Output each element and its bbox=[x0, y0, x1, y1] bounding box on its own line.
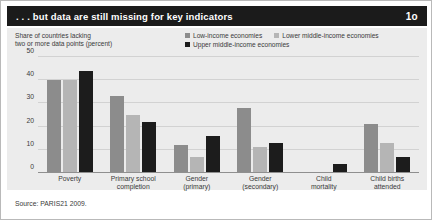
bar bbox=[110, 96, 124, 173]
bar bbox=[237, 108, 251, 173]
legend-label-upper-middle-income: Upper middle-income economies bbox=[193, 40, 289, 49]
figure-title-bar: . . . but data are still missing for key… bbox=[7, 6, 427, 26]
bar bbox=[380, 143, 394, 173]
legend-item-lower-middle-income: Lower middle-income economies bbox=[274, 31, 378, 40]
bar-group bbox=[165, 57, 229, 173]
bar-group bbox=[292, 57, 356, 173]
bar bbox=[190, 157, 204, 173]
legend-row-top: Low-income economies Lower middle-income… bbox=[185, 31, 423, 40]
legend-swatch-lower-middle-income bbox=[274, 33, 279, 38]
plot-area: 01020304050 bbox=[38, 57, 419, 173]
bar-group bbox=[356, 57, 420, 173]
bar-groups bbox=[38, 57, 419, 173]
legend-row-bottom: Upper middle-income economies bbox=[185, 40, 423, 49]
bar bbox=[142, 122, 156, 173]
page-title: . . . but data are still missing for key… bbox=[16, 11, 233, 22]
y-axis-tick-label: 10 bbox=[26, 139, 34, 146]
x-axis-tick-label: Child mortality bbox=[292, 175, 356, 191]
x-axis-labels: PovertyPrimary school completionGender (… bbox=[38, 175, 419, 191]
y-axis-tick-label: 30 bbox=[26, 93, 34, 100]
y-axis-tick-label: 20 bbox=[26, 116, 34, 123]
x-axis-baseline bbox=[38, 172, 419, 173]
bar bbox=[47, 80, 61, 173]
bar bbox=[174, 145, 188, 173]
x-axis-tick-label: Gender (primary) bbox=[165, 175, 229, 191]
bar bbox=[364, 124, 378, 173]
source-note: Source: PARIS21 2009. bbox=[15, 200, 87, 207]
bar bbox=[206, 136, 220, 173]
bar-group bbox=[102, 57, 166, 173]
x-axis-tick-label: Child births attended bbox=[356, 175, 420, 191]
bar bbox=[269, 143, 283, 173]
bar-group bbox=[38, 57, 102, 173]
legend-label-lower-middle-income: Lower middle-income economies bbox=[282, 31, 378, 40]
x-axis-tick-label: Gender (secondary) bbox=[229, 175, 293, 191]
legend-item-low-income: Low-income economies bbox=[185, 31, 262, 40]
bar bbox=[253, 147, 267, 173]
bar bbox=[79, 71, 93, 173]
bar bbox=[126, 115, 140, 173]
figure-number-badge: 1o bbox=[406, 11, 418, 22]
chart-legend: Low-income economies Lower middle-income… bbox=[185, 31, 423, 49]
legend-label-low-income: Low-income economies bbox=[193, 31, 262, 40]
x-axis-tick-label: Primary school completion bbox=[102, 175, 166, 191]
figure-container: . . . but data are still missing for key… bbox=[0, 0, 432, 220]
bar bbox=[396, 157, 410, 173]
y-axis-tick-label: 0 bbox=[30, 163, 34, 170]
bar bbox=[63, 80, 77, 173]
x-axis-tick-label: Poverty bbox=[38, 175, 102, 191]
legend-item-upper-middle-income: Upper middle-income economies bbox=[185, 40, 289, 49]
bar-group bbox=[229, 57, 293, 173]
y-axis-tick-label: 50 bbox=[26, 47, 34, 54]
y-axis-tick-label: 40 bbox=[26, 70, 34, 77]
legend-swatch-low-income bbox=[185, 33, 190, 38]
legend-swatch-upper-middle-income bbox=[185, 42, 190, 47]
chart-panel: Share of countries lacking two or more d… bbox=[7, 28, 427, 190]
